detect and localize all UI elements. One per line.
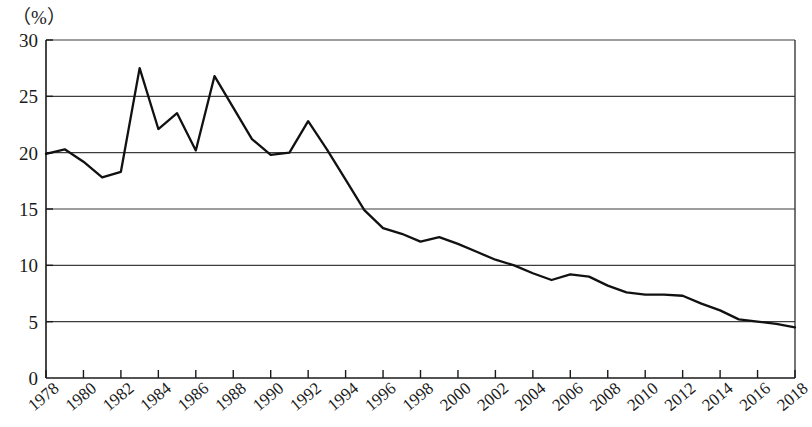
x-tick-label-1996: 1996 [361,379,399,415]
y-tick-label-5: 5 [29,312,39,333]
x-tick-label-1982: 1982 [99,379,137,415]
x-tick-label-1986: 1986 [174,379,212,415]
x-tick-label-2016: 2016 [736,379,774,415]
line-chart: （%） 051015202530 19781980198219841986198… [0,0,812,427]
x-tick-label-2000: 2000 [436,379,474,415]
y-tick-label-10: 10 [19,255,38,276]
x-tick-label-2014: 2014 [698,378,737,415]
x-tick-label-2010: 2010 [624,379,662,415]
x-tick-label-1990: 1990 [249,379,287,415]
x-tick-label-2002: 2002 [474,379,512,415]
x-tick-label-1992: 1992 [286,379,324,415]
y-tick-label-20: 20 [19,143,38,164]
x-tick-label-2004: 2004 [511,378,550,415]
y-tick-label-30: 30 [19,30,38,51]
x-tick-label-1994: 1994 [324,378,363,415]
x-tick-label-2012: 2012 [661,379,699,415]
data-line-series-0 [46,68,795,327]
y-axis-ticks: 051015202530 [19,30,53,389]
x-tick-label-2006: 2006 [549,379,587,415]
x-tick-label-1998: 1998 [399,379,437,415]
x-axis-ticks: 1978198019821984198619881990199219941996… [24,370,811,415]
y-tick-label-15: 15 [19,199,38,220]
data-series [46,68,795,327]
y-tick-label-25: 25 [19,86,38,107]
gridlines [46,40,795,322]
chart-canvas: 051015202530 197819801982198419861988199… [0,0,812,427]
x-tick-label-1988: 1988 [212,379,250,415]
y-tick-label-0: 0 [29,368,39,389]
x-tick-label-2008: 2008 [586,379,624,415]
x-tick-label-2018: 2018 [773,379,811,415]
x-tick-label-1980: 1980 [62,379,100,415]
x-tick-label-1984: 1984 [137,378,176,415]
